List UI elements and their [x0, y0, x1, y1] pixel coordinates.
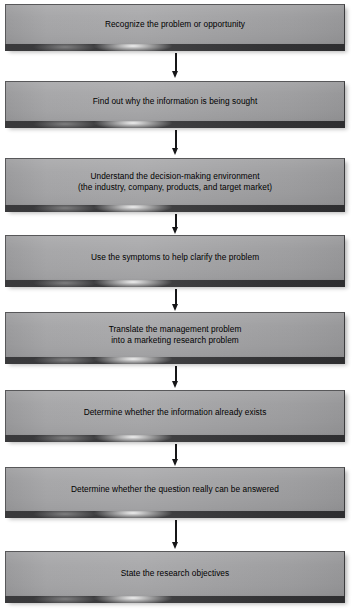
flow-node-bevel	[5, 280, 345, 287]
flow-node-body: Determine whether the information alread…	[5, 390, 345, 435]
arrow-head-icon	[172, 227, 178, 234]
arrow-shaft	[175, 130, 177, 148]
flow-node-body: State the research objectives	[5, 551, 345, 596]
flow-connector-arrow-7-8	[172, 520, 179, 549]
flow-connector-arrow-6-7	[172, 444, 179, 466]
arrow-head-icon	[172, 381, 178, 388]
flow-node-bevel	[5, 44, 345, 51]
flow-node-bevel	[5, 205, 345, 212]
flow-node-label: Determine whether the information alread…	[74, 407, 277, 419]
arrow-head-icon	[172, 148, 178, 155]
flow-node-label: Recognize the problem or opportunity	[95, 19, 255, 31]
flow-node-body: Recognize the problem or opportunity	[5, 4, 345, 44]
flow-connector-arrow-3-4	[172, 214, 179, 233]
flow-node-label: State the research objectives	[111, 568, 239, 580]
flow-connector-arrow-4-5	[172, 289, 179, 310]
flow-connector-arrow-2-3	[172, 130, 179, 155]
flow-node-label: Translate the management problem into a …	[99, 324, 252, 347]
flow-node-label: Determine whether the question really ca…	[61, 484, 289, 496]
flow-node-step-2: Find out why the information is being so…	[5, 81, 345, 128]
flow-node-label: Find out why the information is being so…	[83, 96, 268, 108]
flow-node-step-3: Understand the decision-making environme…	[5, 158, 345, 212]
arrow-shaft	[175, 53, 177, 71]
arrow-head-icon	[172, 71, 178, 78]
flow-node-step-7: Determine whether the question really ca…	[5, 467, 345, 518]
arrow-shaft	[175, 520, 177, 542]
flow-node-bevel	[5, 596, 345, 603]
flow-node-body: Translate the management problem into a …	[5, 312, 345, 357]
flow-node-step-1: Recognize the problem or opportunity	[5, 4, 345, 51]
arrow-head-icon	[172, 459, 178, 466]
flow-node-bevel	[5, 435, 345, 442]
arrow-shaft	[175, 214, 177, 227]
flow-node-body: Determine whether the question really ca…	[5, 467, 345, 511]
flow-connector-arrow-5-6	[172, 366, 179, 388]
flow-node-label: Understand the decision-making environme…	[68, 171, 282, 194]
flow-node-step-4: Use the symptoms to help clarify the pro…	[5, 235, 345, 287]
flow-node-bevel	[5, 121, 345, 128]
flowchart-canvas: Recognize the problem or opportunity Fin…	[0, 0, 358, 615]
arrow-head-icon	[172, 542, 178, 549]
flow-node-label: Use the symptoms to help clarify the pro…	[81, 252, 269, 264]
flow-node-step-8: State the research objectives	[5, 551, 345, 603]
flow-node-body: Find out why the information is being so…	[5, 81, 345, 121]
flow-node-bevel	[5, 357, 345, 364]
arrow-shaft	[175, 444, 177, 459]
arrow-shaft	[175, 289, 177, 304]
flow-node-body: Use the symptoms to help clarify the pro…	[5, 235, 345, 280]
arrow-shaft	[175, 366, 177, 381]
flow-node-bevel	[5, 511, 345, 518]
flow-connector-arrow-1-2	[172, 53, 179, 78]
flow-node-step-6: Determine whether the information alread…	[5, 390, 345, 442]
flow-node-step-5: Translate the management problem into a …	[5, 312, 345, 364]
flow-node-body: Understand the decision-making environme…	[5, 158, 345, 205]
arrow-head-icon	[172, 304, 178, 311]
